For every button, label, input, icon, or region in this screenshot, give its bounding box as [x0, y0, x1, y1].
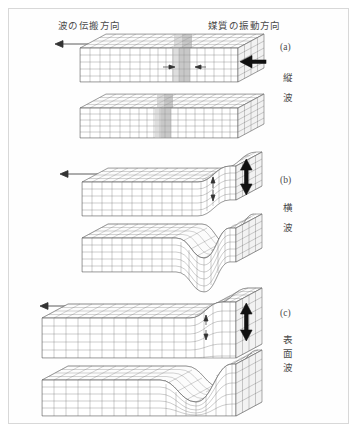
panel-b-tag: (b): [280, 175, 291, 185]
panel-b-label-char-1: 横: [282, 200, 294, 214]
block-b-snapshot-2: [80, 218, 266, 280]
panel-a-label-char-1: 縦: [282, 70, 294, 84]
block-a-snapshot-1: [78, 30, 266, 92]
panel-a-tag: (a): [280, 42, 291, 52]
panel-c-label-char-2: 面: [282, 346, 294, 360]
panel-c-label-char-3: 波: [282, 360, 294, 374]
panel-b-label-char-2: 波: [282, 220, 294, 234]
figure-canvas: 波の伝搬方向 媒質の振動方向: [0, 0, 359, 434]
panel-a-label-char-2: 波: [282, 90, 294, 104]
block-a-snapshot-2: [78, 90, 266, 148]
panel-c-label-char-1: 表: [282, 332, 294, 346]
block-c-snapshot-2: [40, 356, 266, 424]
panel-c-tag: (c): [280, 308, 291, 318]
